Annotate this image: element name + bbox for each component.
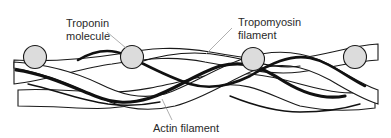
troponin-label: Troponin molecule xyxy=(66,17,110,43)
troponin-molecule-3 xyxy=(242,48,265,71)
tropomyosin-label: Tropomyosin filament xyxy=(238,16,301,42)
actin-label-text: Actin filament xyxy=(153,122,219,134)
troponin-label-line1: Troponin xyxy=(66,17,110,30)
troponin-molecule-4 xyxy=(344,46,367,69)
troponin-molecule-1 xyxy=(24,46,47,69)
tropomyosin-label-line1: Tropomyosin xyxy=(238,16,301,29)
troponin-label-line2: molecule xyxy=(66,30,110,43)
thin-filament-diagram xyxy=(0,0,391,138)
troponin-molecule-2 xyxy=(121,46,144,69)
tropomyosin-leader xyxy=(206,28,232,54)
tropomyosin-label-line2: filament xyxy=(238,29,301,42)
actin-label: Actin filament xyxy=(153,122,219,135)
